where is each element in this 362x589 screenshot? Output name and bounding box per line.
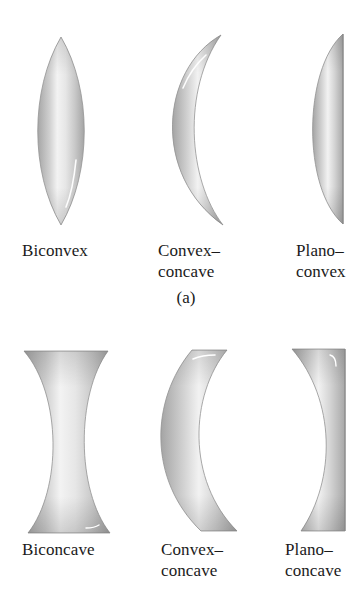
convex-concave-converging-lens-icon [172, 35, 223, 225]
label-line: Biconvex [22, 240, 88, 261]
label-convex-concave-a: Convex– concave [158, 240, 220, 282]
plano-convex-lens-icon [313, 34, 343, 224]
label-line: Biconcave [22, 539, 95, 560]
label-line: concave [158, 261, 220, 282]
label-plano-concave: Plano– concave [285, 539, 341, 581]
label-biconvex: Biconvex [22, 240, 88, 261]
label-biconcave: Biconcave [22, 539, 95, 560]
plano-concave-lens-icon [292, 349, 345, 531]
label-line: Convex– [161, 539, 223, 560]
label-line: Plano– [285, 539, 341, 560]
biconcave-lens-icon [24, 351, 110, 533]
convex-concave-diverging-lens-icon [161, 350, 237, 531]
label-convex-concave-b: Convex– concave [161, 539, 223, 581]
label-line: concave [285, 560, 341, 581]
label-plano-convex: Plano– convex [296, 240, 346, 282]
panel-a-caption: (a) [166, 288, 206, 308]
label-line: concave [161, 560, 223, 581]
lens-types-figure: Biconvex Convex– concave Plano– convex (… [0, 0, 362, 589]
biconvex-lens-icon [38, 37, 85, 225]
label-line: Convex– [158, 240, 220, 261]
label-line: Plano– [296, 240, 346, 261]
label-line: convex [296, 261, 346, 282]
